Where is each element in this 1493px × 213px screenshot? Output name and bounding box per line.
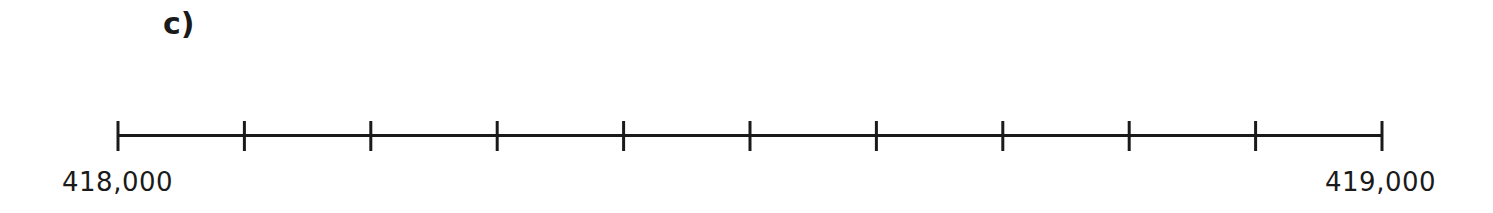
number-line [0, 0, 1493, 213]
end-value-label: 419,000 [1325, 166, 1436, 198]
start-value-label: 418,000 [62, 166, 173, 198]
